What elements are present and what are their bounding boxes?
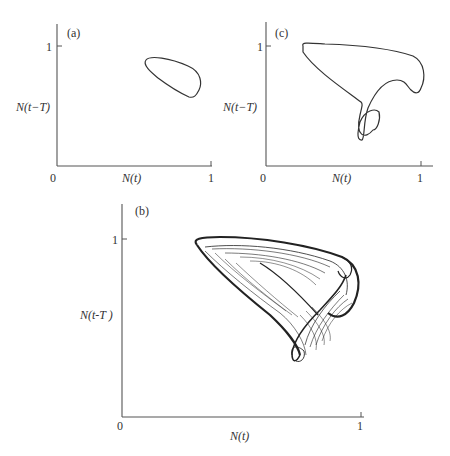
y-tick-label-1: 1 bbox=[257, 41, 263, 53]
x-axis-label: N(t) bbox=[230, 430, 249, 442]
panel-b-plot bbox=[0, 195, 450, 456]
panel-tag: (c) bbox=[275, 27, 288, 39]
y-axis-label: N(t−T) bbox=[223, 101, 257, 113]
x-tick-label-1: 1 bbox=[208, 172, 214, 184]
x-tick-label-1: 1 bbox=[417, 172, 423, 184]
y-axis-label: N(t-T ) bbox=[80, 309, 113, 321]
limit-cycle-curve bbox=[145, 58, 201, 98]
y-tick-label-1: 1 bbox=[46, 41, 52, 53]
panel-b: (b) 1 N(t-T ) 0 N(t) 1 bbox=[0, 195, 450, 456]
y-axis-label: N(t−T) bbox=[16, 101, 50, 113]
panel-a: (a) 1 N(t−T) 0 N(t) 1 bbox=[0, 0, 225, 190]
x-axis-label: N(t) bbox=[332, 172, 351, 184]
panel-tag: (a) bbox=[67, 27, 80, 39]
x-tick-label-1: 1 bbox=[357, 420, 363, 432]
panel-c-plot bbox=[225, 0, 450, 190]
figure: (a) 1 N(t−T) 0 N(t) 1 (c) 1 N(t−T) 0 N(t… bbox=[0, 0, 450, 456]
x-tick-label-0: 0 bbox=[260, 172, 266, 184]
panel-tag: (b) bbox=[135, 205, 149, 217]
panel-a-plot bbox=[0, 0, 225, 190]
x-tick-label-0: 0 bbox=[50, 172, 56, 184]
period-two-cycle-curve bbox=[303, 43, 424, 140]
x-axis-label: N(t) bbox=[122, 172, 141, 184]
y-tick-label-1: 1 bbox=[112, 234, 118, 246]
panel-c: (c) 1 N(t−T) 0 N(t) 1 bbox=[225, 0, 450, 190]
strange-attractor bbox=[196, 237, 359, 362]
x-tick-label-0: 0 bbox=[117, 420, 123, 432]
